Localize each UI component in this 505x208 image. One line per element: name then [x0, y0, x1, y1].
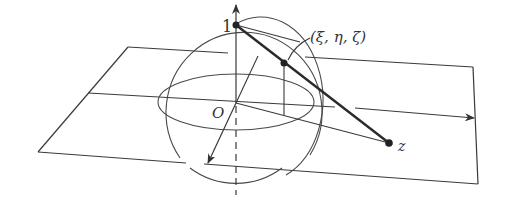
plane-point-label: z	[397, 138, 406, 154]
stereographic-projection-diagram: 1 O (ξ, η, ζ) z	[0, 0, 505, 208]
north-pole-label: 1	[222, 17, 232, 36]
plane-point-z	[385, 139, 393, 147]
north-pole-point	[233, 22, 240, 29]
origin-label: O	[212, 104, 224, 122]
sphere-point-label: (ξ, η, ζ)	[310, 28, 366, 46]
complex-plane	[38, 47, 478, 184]
sphere-point	[281, 60, 288, 67]
